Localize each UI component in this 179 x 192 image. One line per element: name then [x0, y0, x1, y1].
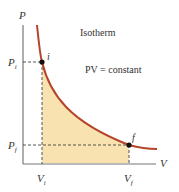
equation-label: PV = constant	[85, 65, 142, 75]
pi-label: Pi	[8, 57, 17, 71]
vi-sub: i	[44, 179, 46, 187]
vi-main: V	[37, 172, 44, 184]
pf-sub: f	[15, 146, 17, 154]
point-f-marker	[126, 142, 131, 147]
pf-label: Pf	[8, 140, 17, 154]
point-f-label: f	[132, 133, 135, 143]
point-i-marker	[39, 59, 44, 64]
pi-main: P	[8, 56, 15, 68]
y-axis-label: P	[19, 10, 26, 21]
pf-main: P	[8, 139, 15, 151]
vf-sub: f	[131, 179, 133, 187]
point-i-label: i	[47, 52, 50, 62]
vi-label: Vi	[37, 173, 46, 187]
diagram-title: Isotherm	[80, 28, 116, 38]
equation-text: PV = constant	[85, 64, 142, 75]
vf-label: Vf	[124, 173, 133, 187]
pi-sub: i	[15, 63, 17, 71]
x-axis-label: V	[160, 158, 167, 169]
work-area-fill	[42, 62, 129, 163]
vf-main: V	[124, 172, 131, 184]
